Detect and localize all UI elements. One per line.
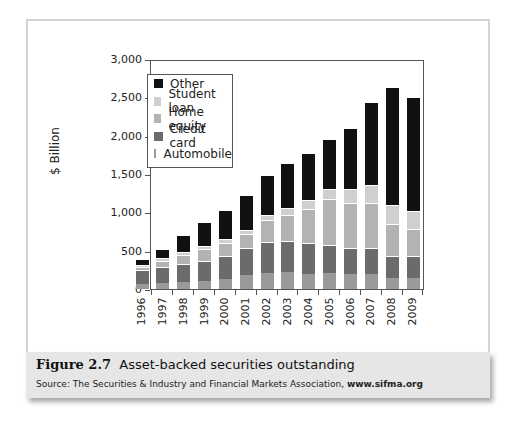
segment-automobile xyxy=(281,272,294,289)
x-tick-label: 2007 xyxy=(364,298,377,330)
bar-2006 xyxy=(344,128,357,289)
segment-home-equity xyxy=(281,215,294,242)
segment-student-loan xyxy=(365,185,378,203)
x-tick-label: 2002 xyxy=(260,298,273,330)
y-tick-label: 3,000 xyxy=(82,54,142,66)
segment-credit-card xyxy=(240,248,253,275)
bar-2008 xyxy=(386,87,399,289)
bar-1996 xyxy=(136,259,149,289)
segment-credit-card xyxy=(281,241,294,272)
segment-credit-card xyxy=(365,248,378,274)
segment-student-loan xyxy=(407,211,420,229)
segment-credit-card xyxy=(407,256,420,278)
legend-swatch xyxy=(154,114,161,123)
segment-credit-card xyxy=(344,248,357,273)
bar-2003 xyxy=(281,163,294,289)
x-tick-mark xyxy=(381,290,382,295)
x-tick-mark xyxy=(235,290,236,295)
segment-home-equity xyxy=(219,243,232,256)
y-axis-label: $ Billion xyxy=(48,127,62,175)
segment-credit-card xyxy=(386,256,399,278)
x-tick-mark xyxy=(172,290,173,295)
segment-other xyxy=(177,235,190,253)
segment-home-equity xyxy=(198,249,211,261)
source-text: Source: The Securities & Industry and Fi… xyxy=(36,379,347,389)
x-tick-label: 2009 xyxy=(406,298,419,330)
x-tick-label: 1996 xyxy=(135,298,148,330)
legend-swatch xyxy=(154,79,163,88)
segment-automobile xyxy=(219,279,232,289)
bar-2002 xyxy=(261,175,274,289)
segment-automobile xyxy=(198,281,211,289)
x-tick-mark xyxy=(277,290,278,295)
bar-2009 xyxy=(407,97,420,289)
y-tick-label: 1,500 xyxy=(82,169,142,181)
y-tick-label: 2,500 xyxy=(82,92,142,104)
caption-source: Source: The Securities & Industry and Fi… xyxy=(36,379,423,389)
bar-2007 xyxy=(365,102,378,289)
segment-student-loan xyxy=(302,200,315,208)
legend-swatch xyxy=(154,97,161,106)
segment-automobile xyxy=(177,282,190,289)
segment-home-equity xyxy=(407,229,420,256)
x-tick-mark xyxy=(297,290,298,295)
segment-credit-card xyxy=(219,256,232,279)
x-tick-label: 2004 xyxy=(301,298,314,330)
bar-1998 xyxy=(177,235,190,289)
caption-title: Figure 2.7 Asset-backed securities outst… xyxy=(36,357,355,372)
y-tick-label: 2,000 xyxy=(82,131,142,143)
segment-student-loan xyxy=(323,189,336,199)
segment-other xyxy=(261,175,274,216)
segment-home-equity xyxy=(240,234,253,249)
segment-credit-card xyxy=(302,243,315,274)
segment-credit-card xyxy=(156,267,169,283)
segment-automobile xyxy=(261,273,274,289)
y-tick-label: 0 xyxy=(82,284,142,296)
segment-home-equity xyxy=(261,220,274,242)
segment-student-loan xyxy=(386,205,399,223)
segment-home-equity xyxy=(323,199,336,246)
segment-home-equity xyxy=(344,203,357,248)
x-tick-label: 2001 xyxy=(239,298,252,330)
x-tick-label: 1999 xyxy=(197,298,210,330)
segment-automobile xyxy=(240,275,253,289)
segment-other xyxy=(365,102,378,185)
segment-home-equity xyxy=(386,224,399,256)
bar-2000 xyxy=(219,210,232,289)
segment-student-loan xyxy=(344,189,357,203)
x-tick-mark xyxy=(193,290,194,295)
segment-other xyxy=(344,128,357,189)
x-tick-mark xyxy=(256,290,257,295)
figure-caption: Figure 2.7 Asset-backed securities outst… xyxy=(26,352,490,398)
x-tick-label: 2003 xyxy=(280,298,293,330)
segment-automobile xyxy=(365,274,378,289)
segment-other xyxy=(240,195,253,230)
segment-automobile xyxy=(323,273,336,289)
x-tick-label: 1997 xyxy=(155,298,168,330)
segment-other xyxy=(281,163,294,208)
bar-2005 xyxy=(323,139,336,289)
segment-credit-card xyxy=(136,270,149,284)
segment-other xyxy=(386,87,399,206)
x-tick-mark xyxy=(318,290,319,295)
figure-number: Figure 2.7 xyxy=(36,357,111,372)
x-tick-label: 2006 xyxy=(343,298,356,330)
segment-automobile xyxy=(302,274,315,289)
segment-other xyxy=(219,210,232,239)
segment-home-equity xyxy=(177,255,190,264)
x-tick-label: 2005 xyxy=(322,298,335,330)
source-link[interactable]: www.sifma.org xyxy=(347,379,423,389)
y-tick-label: 1,000 xyxy=(82,207,142,219)
segment-credit-card xyxy=(177,264,190,282)
bar-2004 xyxy=(302,153,315,289)
segment-home-equity xyxy=(302,209,315,244)
plot-area: OtherStudent loanHome equityCredit cardA… xyxy=(150,60,424,290)
legend-label: Automobile xyxy=(163,147,232,161)
x-tick-mark xyxy=(360,290,361,295)
figure-title: Asset-backed securities outstanding xyxy=(119,357,355,372)
segment-other xyxy=(407,97,420,210)
legend-swatch xyxy=(154,149,156,158)
segment-automobile xyxy=(136,284,149,289)
segment-automobile xyxy=(156,283,169,289)
legend-swatch xyxy=(154,132,163,141)
